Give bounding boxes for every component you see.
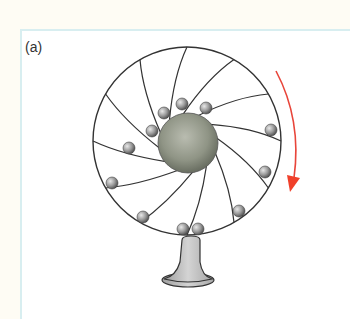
clockwise-arrow-icon	[276, 71, 300, 192]
ball	[123, 142, 135, 154]
hub	[158, 113, 218, 173]
ball	[233, 205, 245, 217]
ball	[146, 125, 158, 137]
ball	[192, 223, 204, 235]
ball	[137, 211, 149, 223]
spoke	[217, 138, 269, 188]
ball	[176, 98, 188, 110]
ball	[265, 124, 277, 136]
spoke	[140, 60, 161, 134]
ball	[177, 223, 189, 235]
ball	[158, 107, 170, 119]
ball	[200, 102, 212, 114]
stand	[162, 236, 214, 287]
spoke	[215, 153, 234, 223]
ball	[259, 166, 271, 178]
spoke	[106, 94, 160, 148]
ball	[106, 177, 118, 189]
